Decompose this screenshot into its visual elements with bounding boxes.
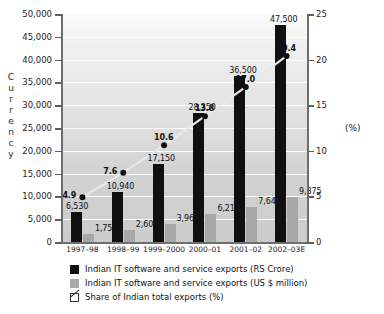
legend-item-label: Indian IT software and service exports (… — [85, 264, 294, 274]
left-axis-tick — [55, 37, 62, 39]
share-value-label: 7.6 — [103, 167, 117, 176]
right-axis-tick — [307, 60, 314, 62]
left-axis-tick-label: 15,000 — [0, 169, 52, 179]
legend-swatch-usd-icon — [70, 279, 79, 288]
bar-crore-value-label: 6,530 — [66, 202, 88, 211]
left-axis-tick — [55, 105, 62, 107]
right-axis-tick-label: 15 — [316, 100, 327, 110]
bar-usd-value-label: 2,600 — [136, 220, 158, 229]
left-axis-tick — [55, 151, 62, 153]
left-axis-tick-label: 50,000 — [0, 9, 52, 19]
bar-usd-value-label: 7,647 — [258, 197, 280, 206]
bar-crore-value-label: 10,940 — [107, 182, 134, 191]
left-axis-tick-label: 45,000 — [0, 32, 52, 42]
chart-legend: Indian IT software and service exports (… — [70, 262, 307, 304]
share-marker — [120, 170, 126, 176]
left-axis-tick — [55, 60, 62, 62]
right-axis-tick — [307, 14, 314, 16]
right-axis-tick-label: 10 — [316, 146, 327, 156]
legend-item: Indian IT software and service exports (… — [70, 276, 307, 290]
right-axis-tick — [307, 151, 314, 153]
left-axis-tick-label: 10,000 — [0, 191, 52, 201]
bar-crore-value-label: 36,500 — [229, 66, 256, 75]
left-axis-tick-label: 30,000 — [0, 100, 52, 110]
left-axis-tick — [55, 196, 62, 198]
share-value-label: 20.4 — [277, 44, 296, 53]
left-axis-tick-label: 20,000 — [0, 146, 52, 156]
x-axis-category-label: 2001–02 — [230, 245, 262, 254]
right-axis-tick — [307, 242, 314, 244]
left-axis-tick-label: 25,000 — [0, 123, 52, 133]
left-axis-tick — [55, 242, 62, 244]
x-axis-category-label: 2000–01 — [189, 245, 221, 254]
right-axis-unit-label: (%) — [345, 123, 361, 133]
left-axis-tick — [55, 128, 62, 130]
plot-area: 6,5301,75910,9402,60017,1503,96228,3506,… — [62, 14, 307, 242]
left-axis-tick-label: 35,000 — [0, 77, 52, 87]
x-axis-category-label: 1998–99 — [107, 245, 139, 254]
right-axis-tick-label: 0 — [316, 237, 321, 247]
share-marker — [284, 53, 290, 59]
line-series-share-of-exports — [62, 14, 307, 242]
bar-crore-value-label: 47,500 — [270, 15, 297, 24]
x-axis-category-label: 1997–98 — [66, 245, 98, 254]
right-axis-tick — [307, 105, 314, 107]
x-axis-category-label: 1999–2000 — [143, 245, 185, 254]
share-marker — [161, 142, 167, 148]
right-axis-tick-label: 25 — [316, 9, 327, 19]
left-axis-tick — [55, 82, 62, 84]
share-marker — [243, 84, 249, 90]
legend-item: Indian IT software and service exports (… — [70, 262, 307, 276]
bar-usd-value-label: 3,962 — [177, 214, 199, 223]
left-axis-tick-label: 5,000 — [0, 214, 52, 224]
left-axis-tick-label: 0 — [0, 237, 52, 247]
share-markers — [79, 53, 289, 200]
legend-item: Share of Indian total exports (%) — [70, 290, 307, 304]
share-value-label: 13.8 — [195, 104, 214, 113]
left-axis-tick — [55, 174, 62, 176]
x-axis-category-labels: 1997–981998–991999–20002000–012001–02200… — [62, 245, 308, 257]
right-axis-tick — [307, 196, 314, 198]
share-marker — [79, 194, 85, 200]
right-axis-tick-label: 5 — [316, 191, 321, 201]
bottom-axis-line — [61, 242, 308, 244]
x-axis-category-label: 2002–03E — [268, 245, 305, 254]
legend-swatch-crore-icon — [70, 265, 79, 274]
right-axis-tick-label: 20 — [316, 55, 327, 65]
bar-usd-value-label: 1,759 — [95, 224, 117, 233]
bar-crore-value-label: 17,150 — [148, 154, 175, 163]
bar-usd-value-label: 6,217 — [217, 204, 239, 213]
right-axis-line — [307, 14, 309, 243]
share-value-label: 4.9 — [62, 191, 76, 200]
share-value-label: 10.6 — [154, 133, 173, 142]
legend-swatch-share-icon — [70, 293, 79, 302]
legend-item-label: Indian IT software and service exports (… — [85, 278, 307, 288]
legend-item-label: Share of Indian total exports (%) — [85, 292, 224, 302]
share-line-path — [82, 56, 286, 197]
left-axis-tick-label: 40,000 — [0, 55, 52, 65]
left-axis-tick — [55, 219, 62, 221]
share-value-label: 17.0 — [236, 75, 255, 84]
chart-container: Currency 6,5301,75910,9402,60017,1503,96… — [0, 0, 384, 314]
share-marker — [202, 113, 208, 119]
left-axis-tick — [55, 14, 62, 16]
